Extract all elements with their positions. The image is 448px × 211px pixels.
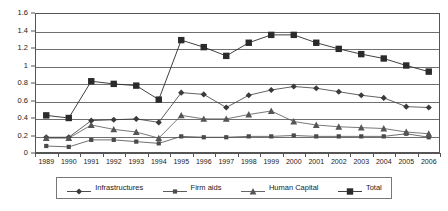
data-point (359, 134, 363, 138)
x-axis-tick-mark (283, 153, 284, 157)
data-point (43, 112, 49, 118)
data-point (202, 135, 206, 139)
data-point (89, 138, 93, 142)
data-point (381, 95, 387, 101)
y-axis-tick-mark (31, 83, 35, 84)
data-point (314, 134, 318, 138)
data-point (156, 119, 162, 125)
legend-label: Human Capital (269, 184, 319, 192)
data-point (292, 133, 296, 137)
legend-item-firm-aids[interactable]: Firm aids (162, 183, 222, 194)
triangle-icon (240, 183, 266, 194)
data-point (178, 112, 185, 118)
data-point (403, 62, 409, 68)
x-axis-tick-mark (260, 153, 261, 157)
y-axis-tick-mark (31, 48, 35, 49)
data-point (336, 46, 342, 52)
x-axis-tick-mark (395, 153, 396, 157)
x-axis-tick-mark (80, 153, 81, 157)
data-point (382, 134, 386, 138)
y-axis-tick-mark (31, 135, 35, 136)
data-point (157, 141, 161, 145)
legend-label: Total (366, 184, 382, 192)
y-axis-tick-mark (31, 100, 35, 101)
x-axis-tick-mark (328, 153, 329, 157)
data-point (201, 91, 207, 97)
chart-container: 00.20.40.60.811.21.41.6 1989199019911992… (0, 0, 448, 211)
data-point (178, 90, 184, 96)
series-line (46, 87, 429, 138)
data-point (381, 55, 387, 61)
data-point (268, 32, 274, 38)
data-point (67, 145, 71, 149)
data-point (223, 104, 229, 110)
x-axis-tick-mark (238, 153, 239, 157)
x-axis-tick-mark (58, 153, 59, 157)
x-axis-tick-mark (350, 153, 351, 157)
legend-item-human-capital[interactable]: Human Capital (240, 183, 319, 194)
x-axis-tick-mark (170, 153, 171, 157)
y-axis-tick-mark (31, 118, 35, 119)
chart-legend: InfrastructuresFirm aidsHuman CapitalTot… (56, 177, 392, 199)
data-point (291, 83, 297, 89)
data-point (358, 51, 364, 57)
data-point (224, 135, 228, 139)
data-point (111, 117, 117, 123)
data-point (246, 92, 252, 98)
data-point (133, 82, 139, 88)
data-point (426, 68, 432, 74)
x-axis-tick-mark (418, 153, 419, 157)
data-point (246, 40, 252, 46)
square-large-icon (337, 183, 363, 194)
y-axis-tick-mark (31, 30, 35, 31)
data-point (290, 118, 297, 124)
data-point (111, 81, 117, 87)
data-point (426, 104, 432, 110)
x-axis-tick-mark (35, 153, 36, 157)
legend-label: Infrastructures (95, 184, 143, 192)
data-point (156, 96, 162, 102)
data-point (268, 108, 275, 114)
data-point (201, 44, 207, 50)
square-small-icon (162, 183, 188, 194)
data-point (337, 134, 341, 138)
data-point (179, 134, 183, 138)
legend-item-infrastructures[interactable]: Infrastructures (66, 183, 143, 194)
series-infrastructures (43, 83, 432, 140)
data-point (313, 40, 319, 46)
data-point (66, 115, 72, 121)
data-point (336, 89, 342, 95)
data-point (403, 104, 409, 110)
x-axis-tick-mark (103, 153, 104, 157)
data-point (88, 78, 94, 84)
legend-item-total[interactable]: Total (337, 183, 382, 194)
diamond-icon (66, 183, 92, 194)
series-line (46, 111, 429, 138)
series-firm-aids (44, 132, 431, 149)
data-point (313, 85, 319, 91)
data-point (269, 134, 273, 138)
data-point (178, 37, 184, 43)
data-point (358, 92, 364, 98)
data-point (268, 87, 274, 93)
data-point (112, 138, 116, 142)
data-point (223, 53, 229, 59)
data-point (134, 140, 138, 144)
y-axis-tick-mark (31, 65, 35, 66)
x-axis-tick-mark (440, 153, 441, 157)
data-point (247, 134, 251, 138)
x-axis-tick-mark (373, 153, 374, 157)
series-line (46, 134, 429, 147)
legend-label: Firm aids (191, 184, 222, 192)
x-axis-tick-mark (215, 153, 216, 157)
x-axis-tick-mark (125, 153, 126, 157)
data-point (44, 144, 48, 148)
x-axis-tick-mark (305, 153, 306, 157)
series-line (46, 35, 429, 118)
data-point (291, 32, 297, 38)
x-axis-tick-mark (148, 153, 149, 157)
series-total (43, 32, 432, 122)
y-axis-tick-mark (31, 13, 35, 14)
data-point (133, 116, 139, 122)
x-axis-tick-mark (193, 153, 194, 157)
